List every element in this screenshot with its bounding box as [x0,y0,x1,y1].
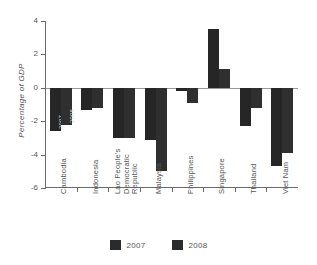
bar-lao-people-s-democratic-republic-2007 [113,88,124,138]
inbar-annotation-2008: 2008 [69,108,75,122]
x-category-label: Thailand [250,164,259,194]
x-tick [77,188,78,192]
y-tick: 4 [41,21,46,22]
x-tick [203,188,204,192]
y-tick: -6 [41,188,46,189]
y-tick-label: 4 [34,16,38,25]
x-category-label-line: Philippines [187,156,196,194]
y-tick-label: -2 [31,116,38,125]
legend-label-2008: 2008 [189,241,208,250]
bar-malaysia-2007 [145,88,156,140]
x-category-label-line: Thailand [250,164,259,194]
y-tick: 2 [41,54,46,55]
bar-lao-people-s-democratic-republic-2008 [124,88,135,138]
bar-thailand-2007 [240,88,251,126]
legend-swatch-2007 [110,240,121,250]
y-tick: 0 [41,88,46,89]
x-tick [235,188,236,192]
bar-singapore-2008 [219,69,230,87]
x-category-label-line: Malaysia [155,163,164,194]
bar-viet-nam-2008 [282,88,293,153]
y-axis-line [45,21,46,188]
x-tick [266,188,267,192]
bar-viet-nam-2007 [271,88,282,166]
x-category-label-line: Viet Nam [282,162,291,194]
y-tick-label: 2 [34,49,38,58]
bar-philippines-2008 [187,88,198,103]
x-tick [172,188,173,192]
y-tick-label: -6 [31,183,38,192]
x-category-label: Malaysia [155,163,164,194]
legend-item-2008: 2008 [172,240,208,250]
legend-label-2007: 2007 [127,241,146,250]
x-category-label: Philippines [187,156,196,194]
x-tick [108,188,109,192]
bar-indonesia-2008 [92,88,103,108]
y-tick: -4 [41,155,46,156]
x-category-label-line: Indonesia [92,160,101,194]
x-category-label: Viet Nam [282,162,291,194]
y-tick-label: 0 [34,83,38,92]
x-category-label: Indonesia [92,160,101,194]
x-category-label: Cambodia [60,158,69,194]
legend-swatch-2008 [172,240,183,250]
bar-malaysia-2008 [156,88,167,172]
bar-indonesia-2007 [81,88,92,110]
bar-thailand-2008 [251,88,262,108]
y-axis-title: Percentage of GDP [17,41,26,161]
chart-legend: 2007 2008 [0,240,317,250]
bar-singapore-2007 [208,29,219,87]
x-category-label-line: Republic [131,148,140,194]
x-category-label-line: Singapore [218,158,227,194]
top-artifact-text [6,0,206,6]
chart-figure: Percentage of GDP 420-2-4-6 20072008 Cam… [0,0,317,265]
x-category-label-line: Cambodia [60,158,69,194]
legend-item-2007: 2007 [110,240,146,250]
y-tick: -2 [41,121,46,122]
x-tick [140,188,141,192]
x-category-label: Lao People'sDemocraticRepublic [114,148,140,194]
plot-area: 420-2-4-6 20072008 CambodiaIndonesiaLao … [45,21,298,188]
y-tick-label: -4 [31,150,38,159]
bar-philippines-2007 [176,88,187,91]
x-category-label: Singapore [218,158,227,194]
